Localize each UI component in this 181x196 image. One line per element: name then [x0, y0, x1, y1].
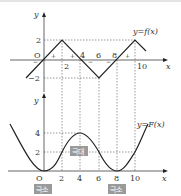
local-max-badge-text: 극대 — [72, 148, 84, 156]
top-graph: y x O 2 −2 2 4 6 8 10 y=f(x) − + + − − + — [10, 10, 171, 92]
x-tick-10: 10 — [137, 62, 147, 71]
x-label: x — [166, 62, 171, 71]
curve-label-F: y=F(x) — [136, 120, 165, 129]
local-min-badge-right-text: 극소 — [110, 186, 123, 194]
bottom-graph: y x O 4 2 2 4 6 8 10 y=F(x) 극대 극소 극소 — [8, 93, 168, 194]
x-axis-arrow-icon — [163, 169, 168, 173]
svg-text:−: − — [106, 58, 111, 65]
svg-text:+: + — [51, 52, 56, 59]
y-axis-arrow-icon — [42, 93, 46, 98]
x-tick-2: 2 — [64, 62, 69, 71]
svg-text:−: − — [88, 58, 93, 65]
curve-label-f: y=f(x) — [132, 27, 158, 36]
x-tick-6-bottom: 6 — [96, 174, 101, 183]
origin-label-bottom: O — [36, 174, 43, 183]
x-tick-8-bottom: 8 — [114, 174, 119, 183]
y-label: y — [33, 10, 39, 19]
y-tick-2-bottom: 2 — [35, 148, 40, 157]
y-tick-2: 2 — [36, 36, 41, 45]
x-tick-10-bottom: 10 — [130, 174, 140, 183]
svg-text:−: − — [33, 58, 38, 65]
x-label-bottom: x — [162, 174, 167, 183]
y-tick-4: 4 — [35, 129, 40, 138]
svg-text:+: + — [70, 52, 75, 59]
x-tick-4: 4 — [80, 51, 85, 60]
x-tick-4-bottom: 4 — [77, 174, 82, 183]
svg-text:+: + — [125, 52, 130, 59]
x-tick-8: 8 — [112, 51, 117, 60]
local-min-badge-left-text: 극소 — [36, 186, 49, 194]
y-label-bottom: y — [33, 96, 39, 105]
x-tick-6: 6 — [96, 51, 101, 60]
y-tick-neg2: −2 — [28, 74, 40, 83]
y-axis-arrow-icon — [42, 12, 46, 17]
x-tick-2-bottom: 2 — [59, 174, 64, 183]
graph-figure: y x O 2 −2 2 4 6 8 10 y=f(x) − + + − − + — [0, 0, 181, 196]
